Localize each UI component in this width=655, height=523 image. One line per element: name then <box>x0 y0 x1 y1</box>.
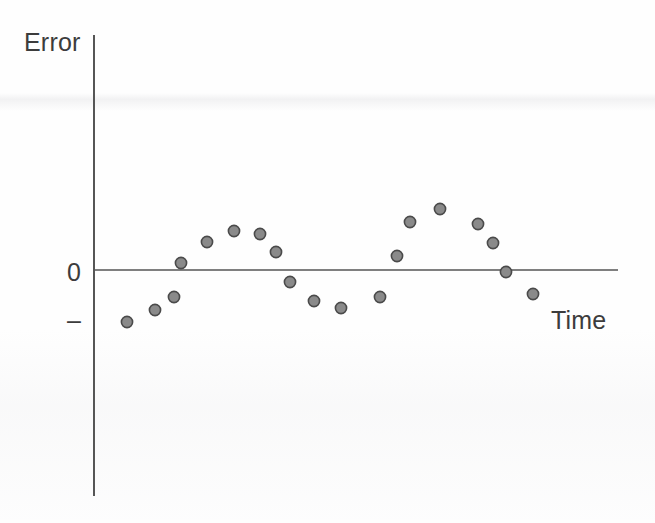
data-point <box>168 291 179 302</box>
data-point <box>500 266 511 277</box>
data-point <box>308 295 319 306</box>
data-point <box>391 250 402 261</box>
data-point <box>254 228 265 239</box>
data-point <box>404 216 415 227</box>
data-point <box>175 257 186 268</box>
plot-canvas <box>0 0 655 523</box>
data-point <box>270 246 281 257</box>
data-point <box>374 291 385 302</box>
data-point <box>527 288 538 299</box>
data-point <box>121 316 132 327</box>
data-point <box>284 276 295 287</box>
data-point <box>472 218 483 229</box>
y-tick-label-zero: 0 <box>67 258 81 287</box>
data-point <box>149 304 160 315</box>
y-tick-label-negative: – <box>67 306 81 335</box>
x-axis-label: Time <box>551 306 606 335</box>
data-point <box>201 236 212 247</box>
data-point <box>487 237 498 248</box>
scatter-plot-figure: Error Time 0 – <box>0 0 655 523</box>
y-axis-label: Error <box>24 28 81 57</box>
data-point <box>228 225 239 236</box>
data-point <box>434 203 445 214</box>
data-point <box>335 302 346 313</box>
data-points-group <box>121 203 538 327</box>
